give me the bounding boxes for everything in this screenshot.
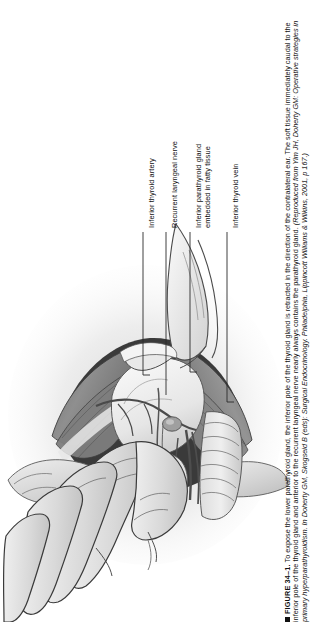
figure-source-publisher: Philadelphia, Lippincott Williams & Wilk… [300, 153, 309, 338]
callout-label-line1: Inferior thyroid vein [231, 164, 240, 228]
figure-source-in: In Doherty GM, Skogseid B (eds): [300, 414, 309, 527]
callout-inferior-thyroid-artery: Inferior thyroid artery [147, 158, 156, 228]
callout-label-line1: Inferior parathyroid gland [194, 144, 203, 228]
callout-label-line1: Inferior thyroid artery [147, 158, 156, 228]
figure-caption: FIGURE 34–1. To expose the lower parathy… [284, 0, 335, 622]
square-bullet-icon [285, 617, 290, 622]
anatomical-illustration [0, 0, 290, 622]
callout-label-line2: embedded in fatty tissue [203, 144, 212, 228]
callout-label-line1: Recurrent laryngeal nerve [170, 141, 179, 228]
callout-inferior-thyroid-vein: Inferior thyroid vein [231, 164, 240, 228]
callout-inferior-parathyroid-gland: Inferior parathyroid gland embedded in f… [194, 144, 212, 228]
figure-source-book: Surgical Endocrinology. [300, 338, 309, 414]
figure-page: Inferior thyroid artery Recurrent laryng… [0, 0, 335, 622]
callout-recurrent-laryngeal-nerve: Recurrent laryngeal nerve [170, 141, 179, 228]
